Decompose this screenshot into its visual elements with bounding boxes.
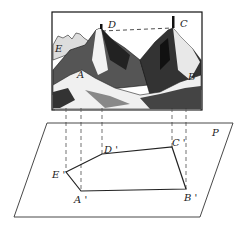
label-D: D [107, 19, 116, 30]
label-E-prime: E ' [51, 169, 65, 180]
mountain-picture: D C E A B [52, 12, 202, 110]
projected-polygon [66, 147, 186, 191]
label-plane-P: P [211, 127, 219, 138]
projection-lines [55, 108, 200, 191]
label-E: E [54, 43, 63, 54]
label-B-prime: B ' [183, 192, 197, 203]
projection-diagram: D C E A B P E ' D ' C ' A ' B ' [0, 0, 244, 228]
label-B: B [187, 71, 195, 82]
plane-P [14, 123, 233, 217]
label-D-prime: D ' [103, 144, 118, 155]
label-C-prime: C ' [172, 137, 186, 148]
label-A-prime: A ' [73, 194, 87, 205]
label-A: A [76, 69, 84, 80]
label-C: C [180, 18, 188, 29]
